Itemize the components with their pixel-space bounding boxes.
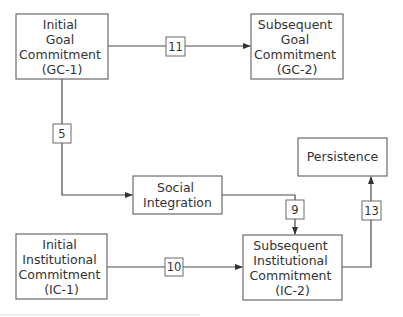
node-initial-institutional-commitment: Initial Institutional Commitment (IC-1) xyxy=(16,234,107,299)
edge-label-13: 13 xyxy=(364,204,379,218)
svg-text:Persistence: Persistence xyxy=(307,149,379,164)
node-text-line: Social xyxy=(157,180,194,195)
node-text-line: (IC-1) xyxy=(44,282,79,297)
node-text-line: Institutional xyxy=(253,253,327,268)
node-text-line: Commitment xyxy=(254,47,336,62)
edge-label-9: 9 xyxy=(291,203,298,217)
scan-artifact-edge xyxy=(0,314,200,316)
node-text-line: Commitment xyxy=(19,267,101,282)
node-text-line: Goal xyxy=(46,32,74,47)
edge-ic2-to-persistence: 13 xyxy=(342,177,381,267)
node-persistence: Persistence xyxy=(298,138,387,176)
edge-ic1-to-ic2: 10 xyxy=(107,258,242,276)
node-text-line: (GC-1) xyxy=(42,62,83,77)
edge-label-5: 5 xyxy=(58,127,65,141)
path-diagram: 11 5 9 10 13 Initial Goal Commitment (GC… xyxy=(0,0,403,317)
edge-label-10: 10 xyxy=(167,260,182,274)
node-social-integration: Social Integration xyxy=(133,176,222,214)
node-initial-goal-commitment: Initial Goal Commitment (GC-1) xyxy=(16,14,108,79)
node-text-line: Initial xyxy=(42,237,77,252)
node-text-line: Initial xyxy=(43,17,78,32)
edge-line xyxy=(342,177,371,267)
node-text-line: Goal xyxy=(281,32,309,47)
node-text-line: Subsequent xyxy=(253,238,327,253)
node-text-line: (IC-2) xyxy=(275,283,310,298)
node-text-line: Commitment xyxy=(250,268,332,283)
edge-line xyxy=(222,195,295,234)
edge-gc1-to-social: 5 xyxy=(53,79,132,195)
node-subsequent-goal-commitment: Subsequent Goal Commitment (GC-2) xyxy=(251,14,343,79)
edge-label-11: 11 xyxy=(168,40,183,54)
node-text-line: Institutional xyxy=(22,252,96,267)
node-text-line: Integration xyxy=(143,195,212,210)
node-text-line: Subsequent xyxy=(258,17,332,32)
node-text-line: Persistence xyxy=(307,149,379,164)
node-text-line: Commitment xyxy=(19,47,101,62)
node-text-line: (GC-2) xyxy=(277,62,318,77)
edge-line xyxy=(62,79,132,195)
edge-social-to-ic2: 9 xyxy=(222,195,304,234)
edge-gc1-to-gc2: 11 xyxy=(108,37,250,56)
node-subsequent-institutional-commitment: Subsequent Institutional Commitment (IC-… xyxy=(243,235,342,300)
